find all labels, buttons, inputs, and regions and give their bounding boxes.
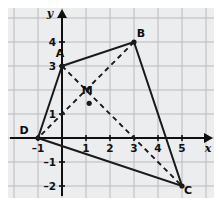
x-tick-label--1: –1 xyxy=(32,142,45,154)
vertex-dot-A xyxy=(59,63,64,68)
vertex-label-M: M xyxy=(82,84,93,97)
coordinate-figure: –112345431–1–2 xy ABCDM xyxy=(0,0,222,206)
vertex-label-D: D xyxy=(19,124,28,137)
y-tick-label-3: 3 xyxy=(49,60,56,72)
y-tick-label--1: –1 xyxy=(43,156,56,168)
x-tick-label-4: 4 xyxy=(154,142,161,154)
y-tick-label--2: –2 xyxy=(43,180,56,192)
plot-background xyxy=(8,8,214,198)
x-tick-label-3: 3 xyxy=(130,142,137,154)
x-tick-label-5: 5 xyxy=(178,142,185,154)
vertex-dot-D xyxy=(35,135,40,140)
vertex-label-A: A xyxy=(56,47,65,60)
y-tick-label-1: 1 xyxy=(49,108,56,120)
vertex-dot-B xyxy=(131,39,136,44)
x-axis-name: x xyxy=(204,142,212,155)
vertex-label-B: B xyxy=(137,27,145,40)
x-tick-label-2: 2 xyxy=(106,142,113,154)
coordinate-plane-svg: –112345431–1–2 xy ABCDM xyxy=(0,0,222,206)
vertex-label-C: C xyxy=(184,184,192,197)
vertex-dot-M xyxy=(87,101,92,106)
